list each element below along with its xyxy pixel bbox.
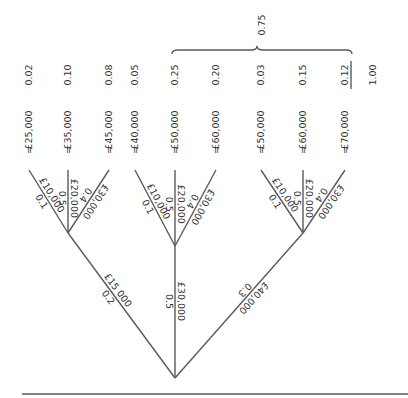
joint-probability: 0.02 <box>23 64 34 85</box>
joint-probability: 0.25 <box>169 64 180 85</box>
outcome-value: £40,000 <box>129 110 140 149</box>
outcome-results: =£25,000=£35,000=£45,000=£40,000=£50,000… <box>23 110 350 154</box>
joint-probability: 0.10 <box>62 64 73 85</box>
probability-tree-diagram: £15 0000.2£30,0000.5£40,0000.3£10,0000.1… <box>0 0 408 398</box>
brace-sum-label: 0.75 <box>256 14 267 35</box>
outcome-value: £50,000 <box>255 110 266 149</box>
joint-probability: 0.20 <box>210 64 221 85</box>
brace-group: 0.75 <box>172 14 352 54</box>
branch-probability: 0.5 <box>164 294 175 309</box>
branch-line-level1-0 <box>68 233 175 378</box>
outcome-value: £25,000 <box>23 110 34 149</box>
joint-probability: 0.03 <box>255 64 266 85</box>
curly-brace <box>172 46 352 54</box>
outcome-value: £60,000 <box>297 110 308 149</box>
outcome-value: £45,000 <box>103 110 114 149</box>
outcome-value: £35,000 <box>62 110 73 149</box>
branch-probability: 0.5 <box>164 197 175 212</box>
joint-probability: 0.05 <box>129 64 140 85</box>
outcome-value: £60,000 <box>210 110 221 149</box>
branch-probability: 0.5 <box>57 191 68 206</box>
total-probability: 1.00 <box>367 64 378 85</box>
outcome-value: £50,000 <box>169 110 180 149</box>
joint-probability: 0.12 <box>339 64 350 85</box>
branch-line-level1-2 <box>175 233 303 378</box>
branch-probability: 0.5 <box>292 191 303 206</box>
branch-label-1-0: £15 0000.2 <box>92 271 134 316</box>
joint-probability: 0.15 <box>297 64 308 85</box>
joint-probability: 0.08 <box>103 64 114 85</box>
branch-amount: £30,000 <box>176 282 187 321</box>
branch-labels: £15 0000.2£30,0000.5£40,0000.3£10,0000.1… <box>27 175 347 321</box>
joint-probabilities: 0.020.100.080.050.250.200.030.150.12 <box>23 61 351 89</box>
outcome-value: £70,000 <box>339 110 350 149</box>
